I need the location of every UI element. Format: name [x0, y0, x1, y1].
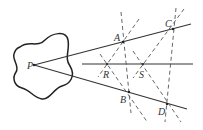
label-s: S	[139, 69, 144, 80]
irregular-region	[14, 34, 73, 99]
label-r: R	[102, 69, 109, 80]
point-p	[33, 64, 35, 66]
point-a	[122, 41, 124, 43]
point-d	[166, 103, 168, 105]
point-s	[142, 63, 144, 65]
label-b: B	[120, 94, 126, 105]
ray-pbd	[34, 65, 187, 109]
dashed-line-cs	[133, 9, 184, 78]
point-b	[128, 91, 130, 93]
label-p: P	[26, 60, 33, 71]
point-r	[106, 63, 108, 65]
label-d: D	[157, 106, 166, 117]
label-c: C	[165, 18, 172, 29]
point-c	[172, 28, 174, 30]
geometry-diagram: P A B C D R S	[0, 0, 203, 130]
ray-pac	[34, 24, 191, 65]
label-a: A	[113, 32, 121, 43]
